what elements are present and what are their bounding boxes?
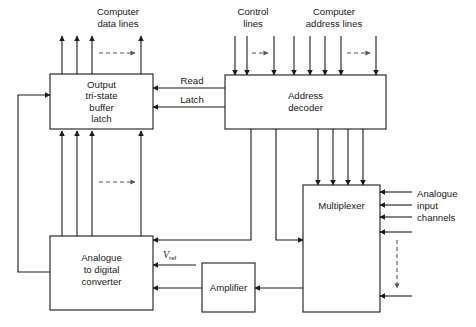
block-diagram: Computer data lines Control lines Comput… (0, 0, 476, 327)
bus-analogue-input-channels (380, 192, 412, 296)
adc-line3: converter (82, 276, 123, 287)
address-decoder-line2: decoder (288, 102, 323, 113)
analogue-channels-line1: Analogue (417, 188, 458, 199)
label-computer-data-lines: Computer data lines (97, 6, 140, 29)
block-address-decoder[interactable]: Address decoder (225, 75, 386, 129)
bus-computer-data-lines (62, 36, 141, 74)
adc-line1: Analogue (81, 252, 122, 263)
block-analogue-to-digital-converter[interactable]: Analogue to digital converter (50, 236, 153, 310)
block-output-tri-state-buffer-latch[interactable]: Output tri-state buffer latch (50, 74, 153, 129)
analogue-channels-line2: input (417, 200, 438, 211)
output-buffer-line4: latch (91, 113, 111, 124)
control-lines-line2: lines (243, 18, 263, 29)
block-amplifier[interactable]: Amplifier (202, 263, 255, 312)
adc-line2: to digital (84, 264, 120, 275)
output-buffer-line3: buffer (89, 102, 114, 113)
signal-vref: Vref (153, 249, 196, 265)
computer-address-lines-line2: address lines (306, 18, 363, 29)
output-buffer-line1: Output (87, 79, 116, 90)
signal-decoder-to-adc (153, 129, 251, 240)
bus-control-lines (235, 36, 274, 75)
label-computer-address-lines: Computer address lines (306, 6, 363, 29)
output-buffer-line2: tri-state (86, 90, 118, 101)
bus-decoder-to-multiplexer (318, 129, 363, 185)
label-control-lines: Control lines (238, 6, 269, 29)
signal-read: Read (153, 75, 225, 88)
block-multiplexer[interactable]: Multiplexer (303, 185, 380, 312)
bus-adc-to-output-buffer (62, 131, 141, 236)
signal-decoder-to-multiplexer-enable (276, 129, 303, 240)
vref-label: Vref (163, 249, 177, 261)
signal-latch: Latch (153, 94, 225, 107)
computer-data-lines-line2: data lines (97, 18, 138, 29)
vref-subscript: ref (169, 254, 177, 261)
amplifier-label: Amplifier (210, 282, 248, 293)
signal-adc-status-feedback (18, 95, 50, 272)
bus-computer-address-lines (294, 36, 376, 75)
diagram-canvas: Computer data lines Control lines Comput… (0, 0, 476, 327)
computer-address-lines-line1: Computer (313, 6, 356, 17)
label-analogue-input-channels: Analogue input channels (417, 188, 458, 223)
computer-data-lines-line1: Computer (97, 6, 140, 17)
analogue-channels-line3: channels (417, 212, 456, 223)
address-decoder-line1: Address (288, 90, 323, 101)
control-lines-line1: Control (238, 6, 269, 17)
latch-label: Latch (180, 94, 203, 105)
read-label: Read (181, 75, 204, 86)
multiplexer-label: Multiplexer (318, 200, 365, 211)
